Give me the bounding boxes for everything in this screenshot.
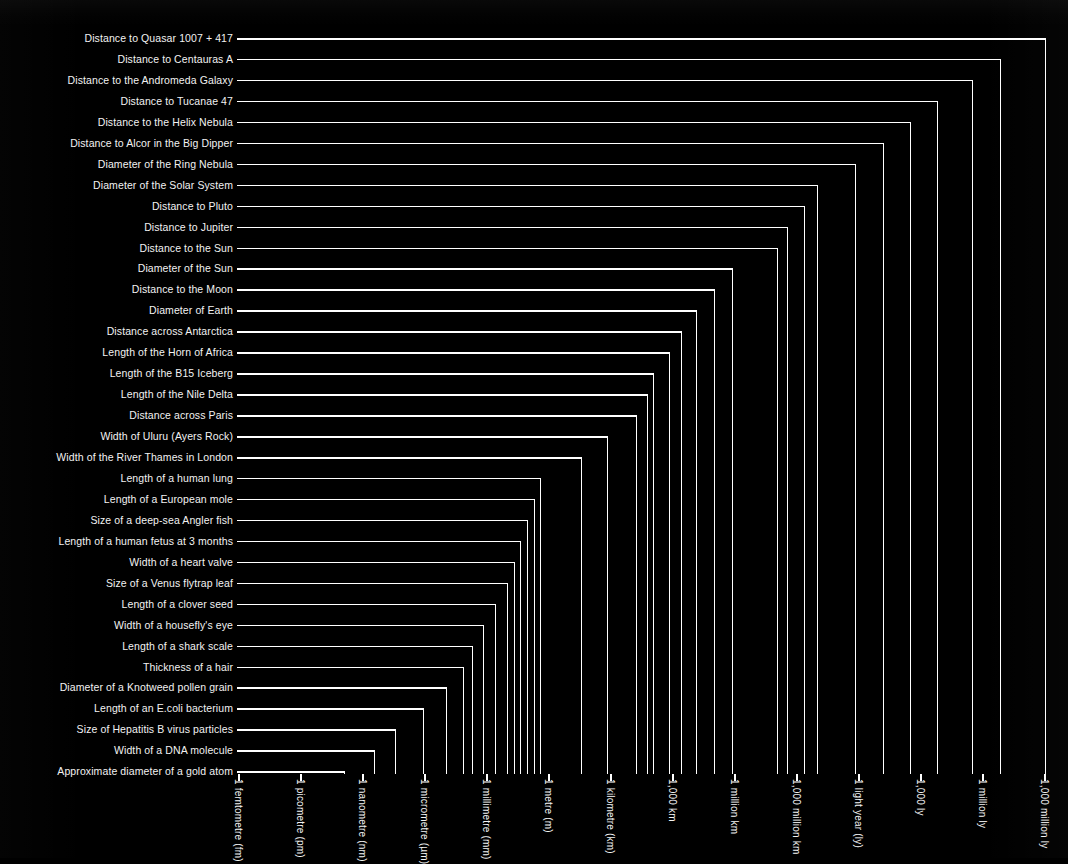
row-value-drop-line [495,604,497,774]
row-value-drop-line [520,541,522,774]
row-leader-line [237,206,805,208]
x-axis-tick-label: 1 light year (ly) [853,779,863,848]
row-leader-line [237,310,697,312]
row-value-drop-line [732,268,734,774]
row-value-drop-line [463,667,465,775]
row-label: Diameter of the Ring Nebula [98,158,233,169]
row-leader-line [237,101,938,103]
row-label: Width of the River Thames in London [56,452,233,463]
row-value-drop-line [423,708,425,774]
row-value-drop-line [514,562,516,774]
row-label: Length of a European mole [104,494,233,505]
row-label: Size of a Venus flytrap leaf [106,577,233,588]
row-value-drop-line [972,80,974,774]
row-leader-line [237,143,884,145]
row-label: Distance to the Andromeda Galaxy [68,75,233,86]
x-axis-tick-label: 1 million km [729,779,739,834]
row-value-drop-line [581,457,583,774]
row-value-drop-line [607,436,609,774]
row-value-drop-line [883,143,885,774]
row-label: Length of a clover seed [122,598,233,609]
row-leader-line [237,750,375,752]
row-value-drop-line [804,206,806,774]
x-axis-tick-label: 1 picometre (pm) [295,779,305,858]
row-leader-line [237,708,424,710]
x-axis-tick-label: 1 nanometre (nm) [357,779,367,862]
row-leader-line [237,394,648,396]
row-value-drop-line [472,646,474,774]
row-value-drop-line [777,248,779,775]
row-label: Length of a human fetus at 3 months [58,536,233,547]
row-value-drop-line [507,583,509,774]
row-leader-line [237,331,682,333]
row-leader-line [237,625,484,627]
row-value-drop-line [937,101,939,774]
x-axis-tick-label: 1,000 million km [791,779,801,854]
row-label: Width of a housefly's eye [114,619,233,630]
row-label: Distance to Alcor in the Big Dipper [70,138,233,149]
row-value-drop-line [817,185,819,774]
row-label: Size of Hepatitis B virus particles [77,724,233,735]
x-axis-tick-label: 1,000 ly [915,779,925,816]
row-leader-line [237,185,818,187]
row-leader-line [237,164,856,166]
row-leader-line [237,583,508,585]
row-label: Distance to the Moon [132,284,233,295]
row-label: Distance to Centauras A [117,54,233,65]
row-leader-line [237,122,911,124]
row-label: Length of the Horn of Africa [102,347,233,358]
row-leader-line [237,373,654,375]
row-leader-line [237,604,496,606]
row-label: Width of a DNA molecule [114,745,233,756]
row-value-drop-line [534,499,536,774]
row-label: Distance to Tucanae 47 [120,96,233,107]
row-value-drop-line [1000,59,1002,774]
x-axis-tick-label: 1 metre (m) [543,779,553,833]
row-label: Thickness of a hair [143,661,233,672]
row-leader-line [237,520,528,522]
row-leader-line [237,248,778,250]
row-leader-line [237,771,345,773]
row-value-drop-line [653,373,655,774]
row-label: Width of a heart valve [129,557,233,568]
x-axis-tick-label: 1,000 km [667,779,677,822]
row-value-drop-line [540,478,542,774]
x-axis-tick-label: 1,000 million ly [1039,779,1049,848]
row-label: Length of a shark scale [122,640,233,651]
row-leader-line [237,541,521,543]
row-value-drop-line [681,331,683,774]
row-label: Diameter of Earth [149,305,233,316]
row-value-drop-line [647,394,649,774]
row-label: Length of an E.coli bacterium [94,703,233,714]
row-leader-line [237,80,973,82]
row-leader-line [237,478,541,480]
row-leader-line [237,436,608,438]
row-label: Size of a deep-sea Angler fish [90,515,233,526]
row-label: Diameter of the Sun [138,263,233,274]
row-label: Length of the Nile Delta [121,389,233,400]
row-label: Diameter of the Solar System [93,179,233,190]
row-leader-line [237,268,733,270]
row-value-drop-line [636,415,638,774]
row-value-drop-line [669,352,671,774]
row-label: Distance to Jupiter [144,221,233,232]
row-label: Length of a human lung [120,473,233,484]
x-axis-tick-label: 1 millimetre (mm) [481,779,491,860]
row-leader-line [237,499,535,501]
row-leader-line [237,59,1001,61]
row-leader-line [237,562,515,564]
row-value-drop-line [714,289,716,774]
row-value-drop-line [483,625,485,774]
row-leader-line [237,687,447,689]
x-axis: 1 femtometre (fm)1 picometre (pm)1 nanom… [0,774,1068,858]
x-axis-tick-label: 1 femtometre (fm) [233,779,243,862]
row-label: Distance to the Sun [139,242,233,253]
row-label: Length of the B15 Iceberg [110,368,233,379]
x-axis-tick-label: 1 million ly [977,779,987,828]
row-value-drop-line [787,227,789,774]
row-value-drop-line [910,122,912,774]
row-leader-line [237,38,1046,40]
row-value-drop-line [1045,38,1047,774]
row-value-drop-line [446,687,448,774]
